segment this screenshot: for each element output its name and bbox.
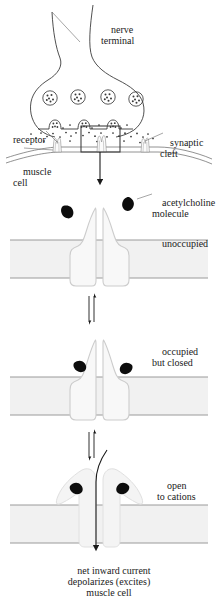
label-unoccupied: unoccupied — [152, 227, 208, 260]
label-muscle-cell: muscle cell — [13, 155, 51, 199]
acetylcholine-leader-line — [137, 194, 152, 199]
label-receptor: receptor — [3, 123, 46, 156]
equilibrium-arrow-2 — [89, 432, 94, 458]
label-occupied-but-closed: occupied but closed — [152, 335, 198, 379]
fusing-vesicle-icon — [52, 122, 117, 128]
figure-root: nerve terminal synaptic cleft receptor m… — [0, 0, 218, 605]
equilibrium-arrow-1 — [89, 296, 94, 322]
nerve-terminal-leader-line — [52, 12, 80, 42]
label-acetylcholine-molecule: acetylcholine molecule — [152, 186, 215, 230]
label-nerve-terminal: nerve terminal — [101, 13, 134, 57]
label-open-to-cations: open to cations — [157, 469, 196, 513]
diagram-canvas — [0, 0, 218, 605]
synaptic-vesicle-icon — [43, 90, 143, 106]
acetylcholine-receptor-icon — [53, 136, 149, 152]
acetylcholine-molecule-icon — [59, 196, 136, 221]
label-synaptic-cleft: synaptic cleft — [160, 126, 203, 170]
figure-caption: net inward current depolarizes (excites)… — [19, 554, 199, 605]
